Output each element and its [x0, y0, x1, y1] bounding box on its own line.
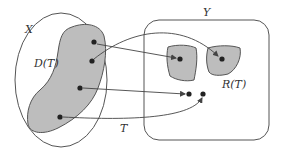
range-point: [219, 56, 224, 61]
range-point: [186, 91, 191, 96]
mapping-arrow-2: [94, 33, 218, 59]
mapping-arrow-1: [97, 44, 176, 58]
domain-point: [91, 39, 96, 44]
range-point: [177, 56, 182, 61]
label-set-y: Y: [203, 6, 212, 19]
label-set-x: X: [24, 23, 34, 36]
label-map-t: T: [120, 122, 129, 135]
domain-point: [57, 114, 62, 119]
range-point: [200, 91, 205, 96]
label-domain: D(T): [33, 57, 59, 70]
mapping-diagram: X Y D(T) R(T) T: [0, 0, 283, 150]
set-y-box: [144, 20, 269, 140]
range-blob-left: [167, 45, 197, 81]
label-range: R(T): [221, 78, 246, 91]
mapping-arrow-3: [83, 88, 185, 94]
domain-point: [89, 58, 94, 63]
domain-point: [77, 85, 82, 90]
